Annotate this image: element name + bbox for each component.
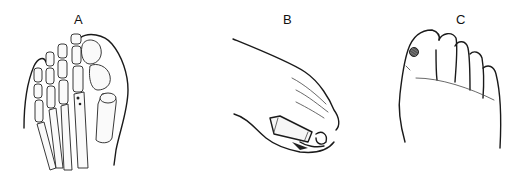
toe-splint-illustration (200, 0, 380, 193)
plantar-forefoot-illustration (370, 0, 517, 193)
panel-a: A (0, 0, 180, 193)
panel-c: C (370, 0, 517, 193)
panel-b: B (200, 0, 380, 193)
skeletal-forefoot-illustration (0, 0, 180, 193)
